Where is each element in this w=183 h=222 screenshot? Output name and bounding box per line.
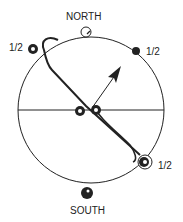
direction-arrow-line [92, 74, 116, 108]
arrow-head-icon [108, 66, 121, 83]
half-label-upper-right: 1/2 [146, 46, 160, 57]
north-label: NORTH [66, 11, 101, 22]
half-label-lower-right: 1/2 [158, 160, 172, 171]
path-curve [43, 38, 140, 155]
south-marker-icon [81, 187, 93, 199]
compass-diagram: NORTH 1/2 1/2 1/2 SOUTH [0, 0, 183, 222]
return-curve [93, 106, 136, 162]
upper-right-marker-icon [132, 47, 140, 55]
half-label-upper-left: 1/2 [9, 42, 23, 53]
south-label: SOUTH [70, 205, 105, 216]
